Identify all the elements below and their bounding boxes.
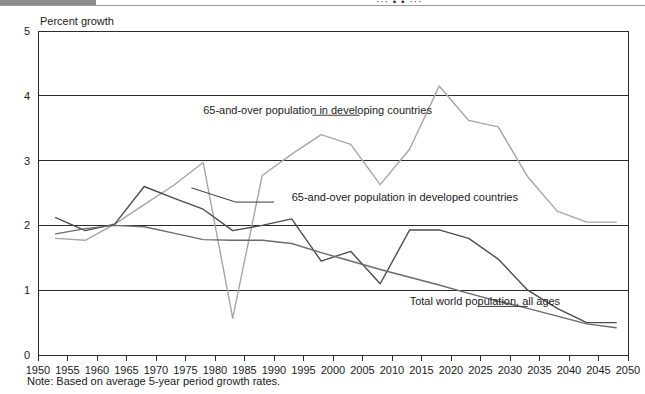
y-tick-label-0: 0 (24, 349, 30, 361)
x-tick-label-2040: 2040 (557, 364, 581, 376)
annotations-group: 65-and-over population in developing cou… (191, 104, 560, 307)
y-tick-label-1: 1 (24, 284, 30, 296)
y-tick-label-5: 5 (24, 25, 30, 37)
leader-developed-d (191, 188, 235, 202)
x-tick-label-2045: 2045 (586, 364, 610, 376)
figure-note: Note: Based on average 5-year period gro… (27, 375, 280, 387)
data-series-group (56, 86, 617, 328)
y-tick-label-4: 4 (24, 90, 30, 102)
x-tick-label-2000: 2000 (321, 364, 345, 376)
x-tick-label-2015: 2015 (409, 364, 433, 376)
x-tick-label-2005: 2005 (350, 364, 374, 376)
x-tick-label-2035: 2035 (527, 364, 551, 376)
y-tick-label-3: 3 (24, 155, 30, 167)
x-tick-label-2020: 2020 (439, 364, 463, 376)
x-tick-label-2010: 2010 (380, 364, 404, 376)
figure-container: ··· ▪ ▪ ··· Percent growth 012345 195019… (0, 0, 645, 394)
annotation-label-0: 65-and-over population in developing cou… (203, 104, 432, 116)
y-tick-labels-group: 012345 (24, 25, 30, 361)
annotation-label-2: Total world population, all ages (410, 295, 561, 307)
x-tick-label-2050: 2050 (616, 364, 640, 376)
series-line-2 (56, 225, 617, 327)
x-tick-marks-group (38, 355, 628, 361)
line-chart-plot: 012345 195019551960196519701975198019851… (0, 0, 645, 394)
annotation-label-1: 65-and-over population in developed coun… (292, 191, 519, 203)
y-tick-label-2: 2 (24, 219, 30, 231)
x-tick-label-2025: 2025 (468, 364, 492, 376)
x-tick-label-1995: 1995 (291, 364, 315, 376)
x-tick-label-2030: 2030 (498, 364, 522, 376)
